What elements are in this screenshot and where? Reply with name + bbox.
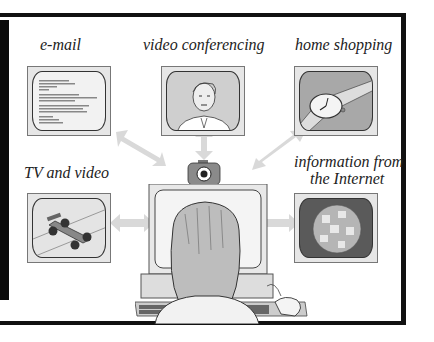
label-email: e-mail bbox=[40, 36, 81, 54]
central-computer-illustration bbox=[135, 184, 315, 324]
label-home-shopping: home shopping bbox=[295, 36, 392, 54]
left-black-bar bbox=[0, 20, 9, 300]
tv-video-screen bbox=[27, 193, 111, 263]
webcam-icon bbox=[186, 160, 222, 186]
label-internet-line1: information from bbox=[294, 153, 403, 171]
frame-top-border bbox=[0, 13, 406, 17]
person-face-icon bbox=[167, 72, 240, 131]
arrow-email bbox=[110, 128, 166, 168]
label-internet-line2: the Internet bbox=[310, 170, 384, 188]
race-car-icon bbox=[33, 199, 106, 258]
email-text-lines-icon bbox=[33, 72, 106, 131]
home-shopping-screen bbox=[294, 66, 378, 136]
email-screen bbox=[27, 66, 111, 136]
wristwatch-icon bbox=[300, 72, 373, 131]
label-video-conferencing: video conferencing bbox=[143, 36, 265, 54]
video-conferencing-screen bbox=[161, 66, 245, 136]
label-tv-video: TV and video bbox=[24, 164, 109, 182]
